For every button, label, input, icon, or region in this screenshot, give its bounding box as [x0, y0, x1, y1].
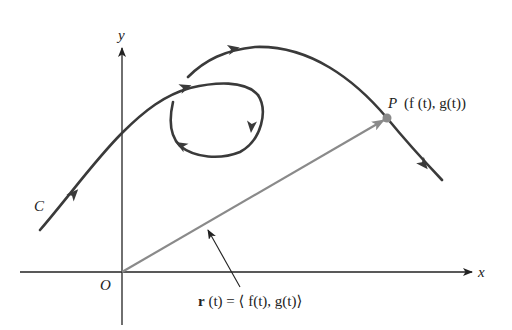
point-coords: (f (t), g(t))	[404, 95, 466, 112]
point-name: P	[387, 95, 397, 111]
vector-label: r (t) = ⟨ f(t), g(t)⟩	[198, 293, 302, 310]
curve-label: C	[34, 198, 45, 214]
vector-equation: (t) = ⟨ f(t), g(t)⟩	[208, 293, 302, 310]
point-label: P (f (t), g(t))	[387, 95, 466, 112]
vector-pointer-arrow	[208, 230, 240, 287]
point-p	[383, 114, 392, 123]
arrow-icon	[246, 121, 257, 134]
vector-name: r	[198, 293, 205, 309]
axes	[20, 48, 472, 325]
parametric-curve-diagram: y x O C P (f (t), g(t)) r (t) = ⟨ f(t), …	[0, 0, 512, 330]
x-axis-label: x	[477, 264, 485, 280]
curve-direction-arrows	[66, 43, 431, 202]
y-axis-label: y	[116, 27, 125, 43]
origin-label: O	[100, 277, 111, 293]
